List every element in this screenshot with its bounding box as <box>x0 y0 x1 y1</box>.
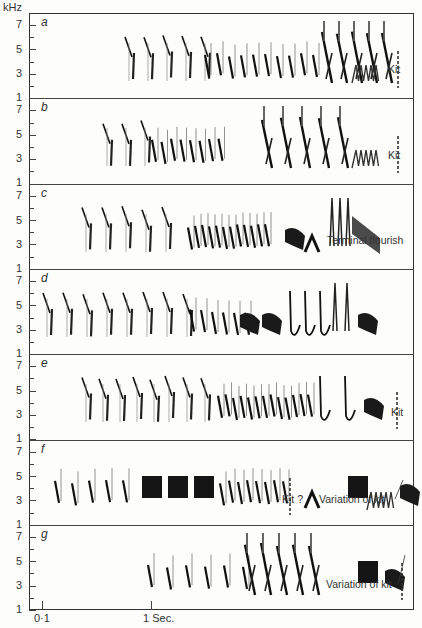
spectrogram-panel-f <box>29 440 414 525</box>
y-tick-label: 3 <box>8 579 22 591</box>
y-tick-label: 7 <box>8 18 22 30</box>
y-tick-label: 1 <box>8 518 22 530</box>
spectrogram-panel-b <box>29 98 414 183</box>
y-tick-mark <box>29 610 36 611</box>
panel-annotation: Terminal flourish <box>327 234 403 246</box>
panel-annotation: Kit <box>391 406 403 418</box>
y-tick-label: 5 <box>8 470 22 482</box>
y-tick-label: 1 <box>8 432 22 444</box>
y-tick-label: 7 <box>8 189 22 201</box>
y-tick-label: 7 <box>8 103 22 115</box>
y-tick-label: 3 <box>8 494 22 506</box>
panel-annotation: Variation of kit <box>319 493 385 505</box>
y-tick-label: 3 <box>8 152 22 164</box>
spectrogram-panel-g <box>29 525 414 610</box>
spectrogram-panel-a <box>29 13 414 98</box>
y-tick-label: 3 <box>8 67 22 79</box>
y-tick-label: 5 <box>8 214 22 226</box>
panel-annotation: Kit <box>388 149 400 161</box>
spectrogram-panel-d <box>29 269 414 354</box>
spectrogram-panel-c <box>29 184 414 269</box>
y-tick-label: 7 <box>8 359 22 371</box>
panel-annotation: Variation of kit <box>326 578 392 590</box>
spectrogram-panel-e <box>29 354 414 439</box>
x-tick-label: 0·1 <box>34 612 50 624</box>
y-tick-label: 1 <box>8 262 22 274</box>
y-tick-label: 7 <box>8 274 22 286</box>
spectrogram-figure: kHz 0·11 Sec. a7531Kitb7531Kitc7531Termi… <box>0 0 422 628</box>
y-tick-label: 3 <box>8 323 22 335</box>
y-tick-label: 5 <box>8 555 22 567</box>
y-tick-label: 1 <box>8 603 22 615</box>
y-tick-label: 7 <box>8 445 22 457</box>
y-tick-label: 3 <box>8 238 22 250</box>
panel-annotation: Kit ? <box>282 493 303 505</box>
panel-annotation: Kit <box>388 63 400 75</box>
y-tick-label: 5 <box>8 384 22 396</box>
y-tick-label: 1 <box>8 176 22 188</box>
y-tick-label: 1 <box>8 347 22 359</box>
y-tick-label: 1 <box>8 91 22 103</box>
y-tick-label: 5 <box>8 128 22 140</box>
y-tick-label: 5 <box>8 299 22 311</box>
y-tick-label: 7 <box>8 530 22 542</box>
y-tick-label: 3 <box>8 408 22 420</box>
x-tick-label: 1 Sec. <box>143 612 174 624</box>
y-tick-label: 5 <box>8 43 22 55</box>
y-axis-unit: kHz <box>3 1 22 13</box>
